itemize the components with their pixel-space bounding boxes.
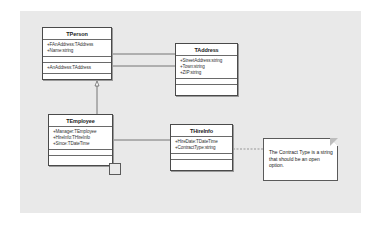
class-name: TEmployee xyxy=(49,115,112,127)
class-name: TPerson xyxy=(43,28,111,40)
class-name: THireInfo xyxy=(171,125,232,137)
properties-section xyxy=(49,156,112,161)
attributes-section: +Manager:TEmployee +HireInfo:THireInfo +… xyxy=(49,127,112,150)
attributes-section: +FAnAddress:TAddress +Name:string xyxy=(43,40,111,57)
properties-section xyxy=(176,85,237,90)
attributes-section: +StreetAddress:string +Town:string +ZIP:… xyxy=(176,56,237,79)
note-contract-type[interactable]: The Contract Type is a string that shoul… xyxy=(263,138,338,181)
note-fold-corner xyxy=(330,138,338,146)
properties-section xyxy=(171,160,232,165)
class-name: TAddress xyxy=(176,44,237,56)
class-tperson[interactable]: TPerson +FAnAddress:TAddress +Name:strin… xyxy=(42,27,112,80)
attribute: +Name:string xyxy=(47,48,107,54)
self-association-loop[interactable] xyxy=(109,163,121,175)
class-thireinfo[interactable]: THireInfo +HireDate:TDateTime +ContractT… xyxy=(170,124,233,171)
note-text: The Contract Type is a string that shoul… xyxy=(269,149,333,169)
property: +AnAddress:TAddress xyxy=(47,65,107,71)
properties-section: +AnAddress:TAddress xyxy=(43,63,111,74)
attribute: +ContractType:string xyxy=(175,145,228,151)
attribute: +Since:TDateTime xyxy=(53,141,108,147)
class-temployee[interactable]: TEmployee +Manager:TEmployee +HireInfo:T… xyxy=(48,114,113,166)
generalization-arrowhead-icon xyxy=(95,81,99,86)
class-taddress[interactable]: TAddress +StreetAddress:string +Town:str… xyxy=(175,43,238,96)
attribute: +ZIP:string xyxy=(180,70,233,76)
attributes-section: +HireDate:TDateTime +ContractType:string xyxy=(171,137,232,154)
